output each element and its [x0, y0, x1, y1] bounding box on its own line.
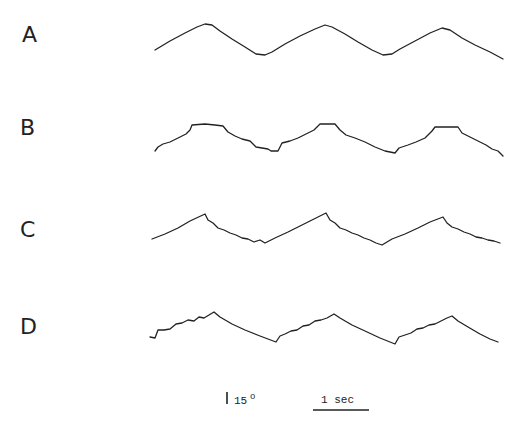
trace-a [155, 24, 503, 59]
figure-canvas: A B C D 15 o 1 sec [0, 0, 523, 421]
time-scale-label: 1 sec [321, 394, 354, 406]
panel-label-a: A [22, 22, 37, 47]
time-scale-bar: 1 sec [313, 394, 369, 410]
panel-label-b: B [20, 115, 35, 140]
amplitude-scale-bar: 15 o [227, 392, 255, 407]
trace-c [152, 213, 500, 245]
amplitude-value: 15 [234, 395, 247, 407]
degree-symbol: o [250, 392, 255, 402]
trace-d [150, 312, 498, 344]
panel-label-c: C [20, 217, 35, 242]
trace-b [155, 124, 503, 156]
panel-label-d: D [20, 314, 37, 339]
